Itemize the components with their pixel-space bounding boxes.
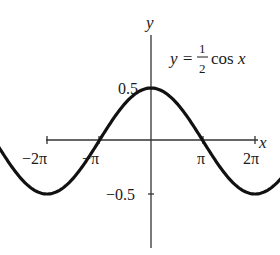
y-axis-label: y — [144, 13, 154, 32]
x-tick-label-pi: π — [197, 150, 205, 167]
y-tick-label-neg-0.5: −0.5 — [106, 186, 135, 203]
x-tick-label-neg-pi: −π — [82, 150, 99, 167]
equation-label: y = 1 2 cos x — [168, 41, 246, 76]
y-tick-label-0.5: 0.5 — [118, 80, 138, 97]
x-axis-label: x — [258, 133, 267, 152]
svg-text:1: 1 — [199, 41, 206, 56]
x-tick-label-2pi: 2π — [243, 150, 259, 167]
svg-text:2: 2 — [199, 61, 206, 76]
svg-text:y =: y = — [168, 49, 193, 68]
equation-rhs: cos x — [211, 49, 246, 68]
x-tick-label-neg-2pi: −2π — [22, 150, 47, 167]
cosine-curve — [0, 88, 280, 194]
cosine-chart: y x −2π −π π 2π 0.5 −0.5 y = 1 2 cos x — [0, 0, 280, 255]
